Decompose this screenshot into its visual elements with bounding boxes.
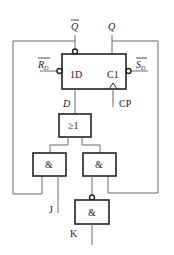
reset-inversion-bubble <box>57 69 62 74</box>
set-label: SD <box>136 59 146 71</box>
q-bar-label: Q <box>71 21 79 32</box>
q-bar-inversion-bubble <box>73 49 78 54</box>
and-bottom-label: & <box>88 207 96 218</box>
circuit-diagram: Q Q RD SD 1D C1 D CP ≥1 & & & J K <box>0 0 174 255</box>
data-input-label: 1D <box>70 69 82 80</box>
q-label: Q <box>108 21 116 32</box>
and-left-label: & <box>45 159 53 170</box>
or-gate-label: ≥1 <box>68 120 79 131</box>
reset-label: RD <box>37 59 49 71</box>
or-to-and-left-wire <box>50 137 68 153</box>
clock-input-label: C1 <box>107 69 119 80</box>
or-to-and-right-wire <box>82 137 100 153</box>
j-signal-label: J <box>49 204 53 215</box>
set-inversion-bubble <box>126 69 131 74</box>
d-signal-label: D <box>62 98 71 109</box>
cp-signal-label: CP <box>119 98 132 109</box>
and-right-label: & <box>95 159 103 170</box>
k-signal-label: K <box>70 228 78 239</box>
